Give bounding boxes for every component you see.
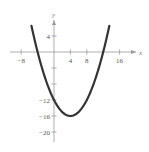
x-axis-arrow-icon: [131, 50, 136, 54]
y-axis-label: y: [51, 11, 56, 19]
axis-ticks: [21, 36, 119, 132]
y-axis-arrow-icon: [52, 20, 56, 25]
y-tick-label: −20: [39, 129, 50, 137]
y-tick-label: −12: [39, 97, 50, 105]
x-tick-label: 8: [85, 57, 89, 65]
y-tick-label: 4: [47, 33, 51, 41]
parabola-chart: xy−848164−12−16−20: [0, 0, 149, 152]
y-tick-label: −16: [39, 113, 50, 121]
axes: [10, 20, 136, 142]
x-tick-label: 4: [69, 57, 73, 65]
x-axis-label: x: [138, 49, 143, 57]
x-tick-label: −8: [17, 57, 25, 65]
x-tick-label: 16: [116, 57, 124, 65]
tick-labels: xy−848164−12−16−20: [17, 11, 143, 137]
